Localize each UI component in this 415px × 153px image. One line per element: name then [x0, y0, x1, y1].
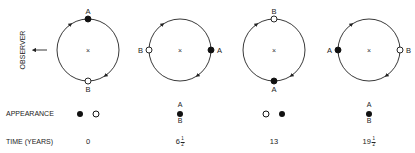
star-a-label: A — [217, 46, 222, 55]
star-b-icon — [146, 47, 152, 53]
orbit-2: ×AB — [138, 19, 222, 81]
appearance-star-left-icon — [263, 111, 270, 118]
star-a-icon — [335, 47, 341, 53]
center-of-mass-icon: × — [86, 47, 90, 54]
star-a-label: A — [85, 7, 90, 16]
appearance-label-top: A — [178, 101, 183, 108]
observer-label: OBSERVER — [18, 28, 26, 72]
binary-orbit-diagram: ×AB×AB×AB×AB OBSERVER APPEARANCE TIME (Y… — [0, 0, 415, 153]
star-b-label: B — [271, 7, 276, 16]
center-of-mass-icon: × — [272, 47, 276, 54]
center-of-mass-icon: × — [367, 47, 371, 54]
star-b-label: B — [138, 46, 143, 55]
star-a-icon — [208, 47, 214, 53]
appearance-star-right-icon — [93, 111, 100, 118]
time-value: 0 — [86, 137, 90, 146]
time-value: 13 — [270, 137, 278, 146]
star-b-label: B — [85, 85, 90, 94]
star-a-icon — [271, 78, 277, 84]
time-row-label: TIME (YEARS) — [6, 138, 53, 145]
appearance-star-left-icon — [77, 111, 83, 117]
time-fraction: 12 — [372, 137, 376, 147]
orbit-4: ×AB — [327, 19, 411, 81]
orbit-1: ×AB — [57, 7, 119, 94]
appearance-row-label: APPEARANCE — [6, 110, 54, 117]
time-value: 612 — [176, 137, 185, 147]
center-of-mass-icon: × — [178, 47, 182, 54]
orbit-3: ×AB — [243, 7, 305, 94]
star-a-icon — [85, 16, 91, 22]
time-fraction: 12 — [181, 137, 185, 147]
time-value: 1912 — [363, 137, 376, 147]
star-a-label: A — [327, 46, 332, 55]
appearance-label-top: A — [367, 101, 372, 108]
appearance-star-right-icon — [279, 111, 285, 117]
star-b-label: B — [406, 46, 411, 55]
appearance-label-bottom: B — [178, 117, 183, 124]
orbits-figure: ×AB×AB×AB×AB — [0, 0, 415, 100]
star-a-label: A — [271, 85, 276, 94]
star-b-icon — [397, 47, 403, 53]
star-b-icon — [85, 78, 91, 84]
star-b-icon — [271, 16, 277, 22]
appearance-label-bottom: B — [367, 117, 372, 124]
